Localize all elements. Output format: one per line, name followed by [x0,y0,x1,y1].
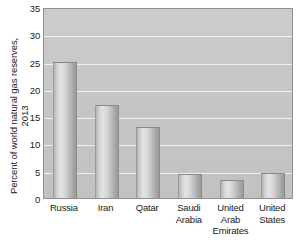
bars-layer [44,9,292,198]
bar [95,105,119,198]
bar [136,127,160,198]
x-axis-tick-label-line: Arab [210,214,252,226]
x-axis-tick-label-line: United [251,202,293,214]
x-axis-tick-label-line: Iran [85,202,127,214]
y-axis-tick-label: 20 [16,84,40,95]
y-axis-tick-label: 10 [16,139,40,150]
bar [220,180,244,198]
x-axis-tick-label: Qatar [126,202,168,214]
y-axis-tick-label: 5 [16,166,40,177]
y-axis-tick-label: 35 [16,3,40,14]
bar [178,174,202,198]
y-axis-tick-label: 25 [16,57,40,68]
x-axis-tick-label-line: Arabia [168,214,210,226]
x-axis-tick-label-line: Russia [43,202,85,214]
y-axis-tick-label: 30 [16,30,40,41]
x-axis-tick-label: UnitedArabEmirates [210,202,252,237]
x-axis-tick-labels: RussiaIranQatarSaudiArabiaUnitedArabEmir… [43,202,293,247]
bar-chart-figure: Percent of world natural gas reserves, 2… [0,0,297,247]
y-axis-tick-labels: 05101520253035 [16,0,40,247]
x-axis-tick-label: SaudiArabia [168,202,210,225]
y-axis-tick-label: 15 [16,112,40,123]
bar [53,62,77,198]
y-axis-tick-label: 0 [16,194,40,205]
x-axis-tick-label-line: Emirates [210,225,252,237]
bar [261,173,285,198]
x-axis-tick-label: Iran [85,202,127,214]
x-axis-tick-label: Russia [43,202,85,214]
x-axis-tick-label-line: Qatar [126,202,168,214]
x-axis-tick-label-line: United [210,202,252,214]
x-axis-tick-label-line: States [251,214,293,226]
x-axis-tick-label-line: Saudi [168,202,210,214]
x-axis-tick-label: UnitedStates [251,202,293,225]
plot-area [43,8,293,199]
